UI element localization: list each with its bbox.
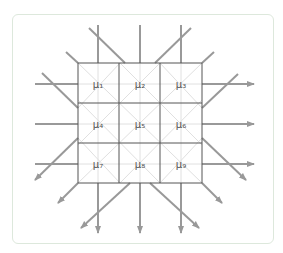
cell-label-mu9: μ₉ bbox=[176, 159, 186, 170]
cell-label-mu8: μ₈ bbox=[135, 159, 145, 170]
cell-label-mu4: μ₄ bbox=[93, 119, 103, 130]
grid-diagram: μ₁ μ₂ μ₃ μ₄ μ₅ μ₆ μ₇ μ₈ μ₉ bbox=[0, 0, 283, 253]
cell-label-mu2: μ₂ bbox=[135, 79, 145, 90]
cell-label-mu1: μ₁ bbox=[93, 79, 103, 90]
cell-label-mu7: μ₇ bbox=[93, 159, 103, 170]
cell-label-mu3: μ₃ bbox=[176, 79, 186, 90]
cell-label-mu5: μ₅ bbox=[135, 119, 145, 130]
cell-label-mu6: μ₆ bbox=[176, 119, 186, 130]
